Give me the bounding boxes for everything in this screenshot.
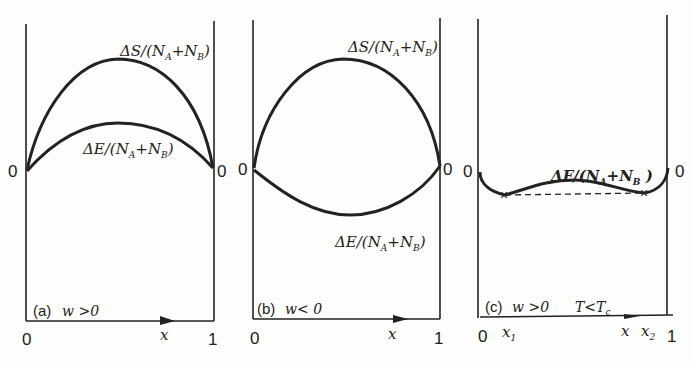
x-label: x [621, 322, 630, 340]
temperature-condition: T<Tc [575, 299, 610, 317]
x-axis-arrow-icon [160, 316, 175, 325]
mixing-thermodynamics-figure: ΔS/(NA+NB) ΔE/(NA+NB) 0 0 (a) w >0 0 1 x… [0, 0, 691, 367]
minimum-marker-x1-icon: × [500, 187, 508, 203]
panel-c: × × ΔF/(NA+NB ) 0 0 (c) w >0 T<Tc 0 1 x1… [463, 15, 684, 346]
delta-e-label: ΔE/(NA+NB) [334, 233, 426, 253]
x-start: 0 [22, 330, 31, 349]
panel-tag: (a) [33, 302, 51, 319]
y-origin-left: 0 [8, 162, 17, 181]
x-axis [480, 315, 673, 317]
x-label: x [388, 325, 397, 343]
panel-b: ΔS/(NA+NB) ΔE/(NA+NB) 0 0 (b) w< 0 0 1 x [238, 18, 452, 348]
panel-a: ΔS/(NA+NB) ΔE/(NA+NB) 0 0 (a) w >0 0 1 x [8, 21, 226, 349]
x-end: 1 [208, 330, 217, 349]
delta-s-label: ΔS/(NA+NB) [119, 42, 210, 62]
panel-tag: (c) [485, 298, 503, 315]
delta-e-label: ΔE/(NA+NB) [82, 140, 174, 160]
x2-label: x2 [641, 322, 655, 342]
delta-f-label: ΔF/(NA+NB ) [550, 167, 653, 187]
condition: w >0 [512, 299, 549, 315]
x-axis-arrow-icon [393, 315, 408, 323]
minimum-marker-x2-icon: × [640, 185, 648, 201]
common-tangent-line [505, 193, 645, 195]
condition: w >0 [62, 303, 99, 319]
panel-tag: (b) [257, 300, 275, 317]
x-end: 1 [667, 327, 676, 346]
x-end: 1 [434, 329, 443, 348]
y-origin-left: 0 [238, 160, 247, 179]
x-start: 0 [250, 329, 259, 348]
x-start: 0 [478, 327, 487, 346]
y-origin-right: 0 [675, 162, 684, 181]
delta-s-label: ΔS/(NA+NB) [347, 38, 438, 58]
x-label: x [160, 326, 169, 344]
delta-s-curve [254, 59, 440, 168]
y-origin-right: 0 [217, 162, 226, 181]
x1-label: x1 [502, 323, 516, 343]
y-origin-left: 0 [463, 162, 472, 181]
condition: w< 0 [285, 301, 322, 317]
y-origin-right: 0 [443, 160, 452, 179]
delta-e-curve [254, 166, 440, 215]
